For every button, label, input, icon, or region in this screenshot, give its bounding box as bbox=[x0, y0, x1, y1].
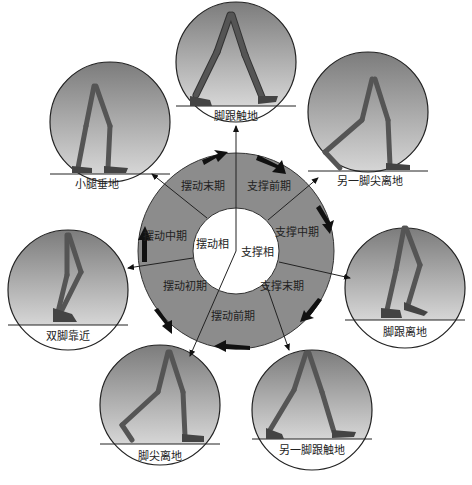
segment-terminal-swing: 摆动末期 bbox=[181, 179, 225, 193]
pose-label: 另一脚跟触地 bbox=[279, 443, 345, 457]
pose-toe-off: 脚尖离地 bbox=[100, 345, 220, 469]
segment-initial-swing: 摆动初期 bbox=[163, 279, 207, 293]
segment-terminal-stance: 支撑末期 bbox=[260, 279, 304, 293]
pose-tibia-vertical: 小腿垂地 bbox=[50, 62, 170, 191]
pose-label: 小腿垂地 bbox=[75, 178, 119, 191]
gait-cycle-diagram: 脚跟触地 另一脚尖离地 bbox=[0, 0, 472, 485]
pose-feet-adjacent: 双脚靠近 bbox=[8, 230, 128, 355]
pose-heel-off: 脚跟离地 bbox=[345, 228, 465, 350]
pose-opposite-heel-strike: 另一脚跟触地 bbox=[252, 350, 372, 474]
segment-mid-swing: 摆动中期 bbox=[143, 229, 187, 243]
swing-phase-label: 摆动相 bbox=[196, 237, 229, 251]
segment-mid-stance: 支撑中期 bbox=[275, 225, 319, 239]
pose-heel-strike: 脚跟触地 bbox=[176, 2, 296, 126]
segment-pre-swing: 摆动前期 bbox=[211, 309, 255, 323]
stance-phase-label: 支撑相 bbox=[241, 245, 274, 259]
pose-label: 脚跟离地 bbox=[383, 325, 427, 339]
pose-label: 脚尖离地 bbox=[138, 449, 182, 463]
pose-label: 双脚靠近 bbox=[46, 329, 90, 343]
segment-loading-response: 支撑前期 bbox=[247, 179, 291, 193]
pose-label: 另一脚尖离地 bbox=[337, 174, 403, 188]
pose-opposite-toe-off: 另一脚尖离地 bbox=[308, 52, 428, 191]
pose-label: 脚跟触地 bbox=[214, 109, 258, 123]
gait-cycle-ring: 支撑前期 支撑中期 支撑末期 摆动前期 摆动初期 摆动中期 摆动末期 摆动相 支… bbox=[128, 126, 350, 356]
